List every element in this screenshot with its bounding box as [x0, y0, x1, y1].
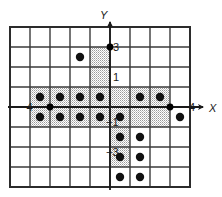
data-dot — [36, 113, 44, 121]
tick-label-y-neg1: −1 — [106, 116, 119, 128]
data-dot — [56, 113, 64, 121]
y-axis-label: Y — [100, 9, 108, 21]
data-dot — [156, 93, 164, 101]
data-dot — [96, 93, 104, 101]
figure-canvas: 31−1−3−44XY — [0, 0, 222, 197]
coordinate-grid-figure: 31−1−3−44XY — [0, 0, 222, 197]
vertex-marker — [47, 104, 54, 111]
data-dot — [56, 93, 64, 101]
data-dot — [136, 173, 144, 181]
tick-label-y-neg3: −3 — [106, 146, 119, 158]
data-dot — [136, 153, 144, 161]
tick-label-y-3: 3 — [113, 41, 119, 53]
x-axis-label: X — [208, 102, 217, 114]
data-dot — [116, 133, 124, 141]
data-dot — [116, 173, 124, 181]
data-dot — [136, 93, 144, 101]
vertex-marker — [167, 104, 174, 111]
tick-label-x-neg4: −4 — [20, 101, 33, 113]
tick-label-y-1: 1 — [113, 71, 119, 83]
tick-label-x-4: 4 — [189, 101, 195, 113]
data-dot — [76, 93, 84, 101]
data-dot — [136, 133, 144, 141]
data-dot — [36, 93, 44, 101]
data-dot — [76, 53, 84, 61]
data-dot — [176, 113, 184, 121]
data-dot — [96, 113, 104, 121]
data-dot — [76, 113, 84, 121]
